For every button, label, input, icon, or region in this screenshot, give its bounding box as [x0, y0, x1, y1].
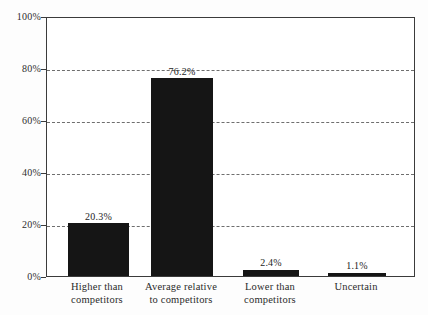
x-axis: Higher than competitors Average relative…: [46, 280, 415, 315]
y-axis-tick-label-0: 0%: [3, 272, 41, 282]
bar-rect[interactable]: [328, 273, 386, 276]
bar-value-label: 2.4%: [260, 257, 282, 268]
x-axis-category-uncertain: Uncertain: [334, 280, 377, 293]
x-axis-category-line-1: Average relative: [145, 281, 217, 292]
bar-group-average-relative-to-competitors[interactable]: 76.2%: [151, 16, 213, 276]
x-axis-category-line-1: Uncertain: [334, 281, 377, 292]
x-axis-category-line-1: Lower than: [245, 281, 295, 292]
bar-group-uncertain[interactable]: 1.1%: [328, 16, 386, 276]
y-axis-tick-label-20: 20%: [3, 220, 41, 230]
y-axis-tick-mark-0: [41, 277, 46, 278]
plot-area: 20.3% 76.2% 2.4% 1.1%: [46, 17, 415, 277]
bar-value-label: 20.3%: [85, 211, 112, 222]
x-axis-category-line-2: competitors: [71, 293, 123, 306]
y-axis-tick-label-40: 40%: [3, 168, 41, 178]
x-axis-category-line-2: to competitors: [145, 293, 217, 306]
bar-rect[interactable]: [68, 223, 129, 276]
bar-group-lower-than-competitors[interactable]: 2.4%: [243, 16, 299, 276]
bar-value-label: 1.1%: [346, 260, 368, 271]
bar-rect[interactable]: [151, 78, 213, 276]
bar-value-label: 76.2%: [169, 66, 196, 77]
y-axis-tick-label-60: 60%: [3, 116, 41, 126]
x-axis-category-line-2: competitors: [244, 293, 296, 306]
x-axis-category-higher-than-competitors: Higher than competitors: [71, 280, 123, 306]
y-axis: 100% 80% 60% 40% 20% 0%: [0, 0, 41, 315]
y-axis-tick-label-100: 100%: [3, 12, 41, 22]
x-axis-category-lower-than-competitors: Lower than competitors: [244, 280, 296, 306]
bar-rect[interactable]: [243, 270, 299, 276]
x-axis-category-average-relative-to-competitors: Average relative to competitors: [145, 280, 217, 306]
y-axis-tick-label-80: 80%: [3, 64, 41, 74]
bar-chart-figure: 100% 80% 60% 40% 20% 0% 20.3% 76.2% 2.4%: [0, 0, 428, 315]
x-axis-category-line-1: Higher than: [71, 281, 123, 292]
bar-group-higher-than-competitors[interactable]: 20.3%: [68, 16, 129, 276]
